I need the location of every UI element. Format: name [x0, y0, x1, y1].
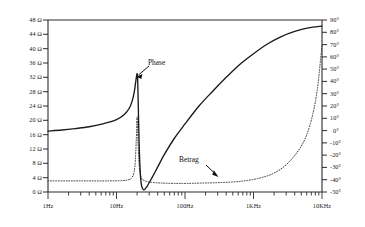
right-axis-tick-label: 20° [330, 103, 339, 109]
series-line-phase [48, 26, 322, 190]
right-axis-tick-label: 30° [330, 91, 339, 97]
right-axis-ticks [322, 20, 327, 192]
left-axis-tick-label: 28 Ω [4, 89, 42, 95]
right-axis-tick-label: 40° [330, 78, 339, 84]
annotation-phase-label: Phase [148, 59, 165, 66]
impedance-phase-bode-chart: 48 Ω 44 Ω 40 Ω 36 Ω 32 Ω 28 Ω 24 Ω 20 Ω … [0, 0, 365, 227]
right-axis-tick-label: 0° [333, 128, 339, 134]
right-axis-tick-label: -30° [330, 164, 341, 170]
left-axis-tick-label: 8 Ω [4, 160, 42, 166]
right-axis-tick-label: -10° [330, 140, 341, 146]
right-axis-tick-label: -20° [330, 152, 341, 158]
right-axis-tick-label: 70° [330, 42, 339, 48]
right-axis-tick-label: 10° [330, 115, 339, 121]
left-axis-tick-label: 36 Ω [4, 60, 42, 66]
x-axis-tick-label: 100Hz [166, 203, 204, 209]
left-axis-tick-label: 40 Ω [4, 46, 42, 52]
right-axis-tick-label: -40° [330, 177, 341, 183]
x-axis-tick-label: 10KHz [303, 203, 341, 209]
left-axis-tick-label: 4 Ω [4, 175, 42, 181]
x-axis-tick-label: 10Hz [98, 203, 135, 209]
x-axis-tick-label: 1KHz [235, 203, 272, 209]
x-axis-ticks [48, 192, 322, 199]
annotation-arrows [137, 66, 219, 177]
left-axis-tick-label: 0 Ω [4, 189, 42, 195]
series-paths [48, 26, 322, 190]
right-axis-tick-label: 90° [330, 17, 339, 23]
x-axis-tick-label: 1Hz [30, 203, 66, 209]
right-axis-tick-label: 50° [330, 66, 339, 72]
right-axis-tick-label: 60° [330, 54, 339, 60]
left-axis-tick-label: 12 Ω [4, 146, 42, 152]
left-axis-tick-label: 48 Ω [4, 17, 42, 23]
left-axis-ticks [43, 20, 48, 192]
left-axis-tick-label: 24 Ω [4, 103, 42, 109]
left-axis-tick-label: 44 Ω [4, 31, 42, 37]
chart-canvas [0, 0, 365, 227]
left-axis-tick-label: 32 Ω [4, 74, 42, 80]
annotation-betrag-label: Betrag [179, 156, 199, 163]
left-axis-tick-label: 16 Ω [4, 132, 42, 138]
plot-frame [48, 20, 322, 192]
right-axis-tick-label: -50° [330, 189, 341, 195]
right-axis-tick-label: 80° [330, 29, 339, 35]
left-axis-tick-label: 20 Ω [4, 117, 42, 123]
